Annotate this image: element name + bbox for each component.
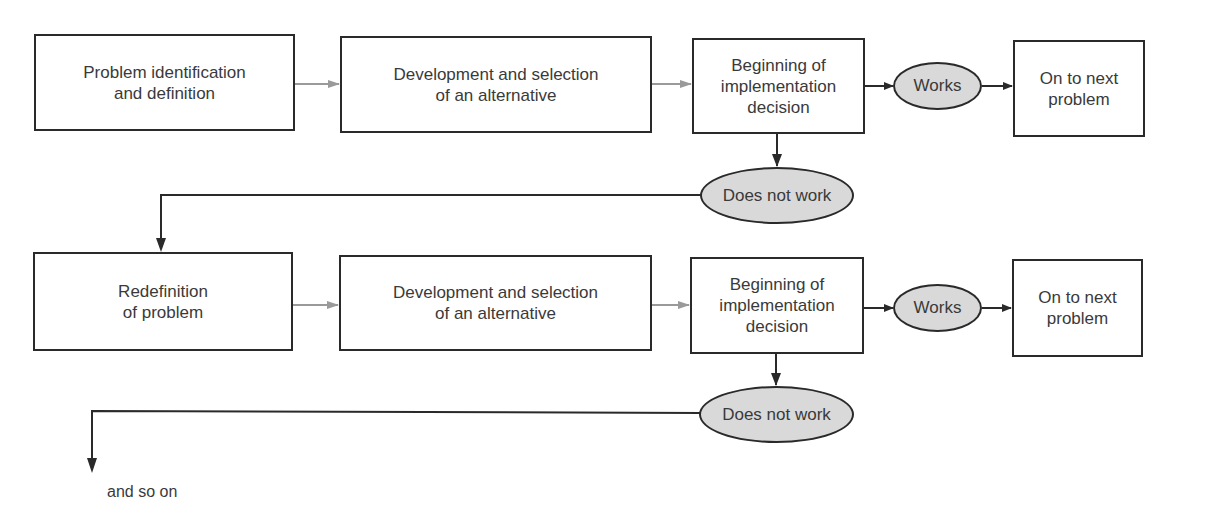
implementation-decision-label-1: Beginning of implementation decision [721,55,836,118]
implementation-decision-box-1: Beginning of implementation decision [692,38,865,134]
development-selection-label-1: Development and selection of an alternat… [393,64,598,106]
arrow-r2-fails-to-continuation [92,411,702,460]
arrow-r1-fails-to-redefinition [161,195,703,240]
development-selection-box-2: Development and selection of an alternat… [339,255,652,351]
does-not-work-label-2: Does not work [722,405,831,425]
does-not-work-label-1: Does not work [723,186,832,206]
next-problem-box-2: On to next problem [1012,259,1143,357]
development-selection-box-1: Development and selection of an alternat… [340,36,652,133]
works-oval-1: Works [893,62,982,110]
problem-identification-label: Problem identification and definition [83,62,246,104]
next-problem-label-2: On to next problem [1038,287,1116,329]
problem-identification-box: Problem identification and definition [34,34,295,131]
development-selection-label-2: Development and selection of an alternat… [393,282,598,324]
next-problem-label-1: On to next problem [1040,68,1118,110]
works-label-1: Works [914,76,962,96]
implementation-decision-label-2: Beginning of implementation decision [719,274,834,337]
does-not-work-oval-2: Does not work [699,386,854,443]
continuation-label: and so on [107,483,177,501]
next-problem-box-1: On to next problem [1013,40,1145,137]
redefinition-label: Redefinition of problem [118,281,208,323]
implementation-decision-box-2: Beginning of implementation decision [690,257,864,354]
does-not-work-oval-1: Does not work [700,167,854,224]
works-label-2: Works [914,298,962,318]
redefinition-box: Redefinition of problem [33,252,293,351]
works-oval-2: Works [893,284,982,332]
